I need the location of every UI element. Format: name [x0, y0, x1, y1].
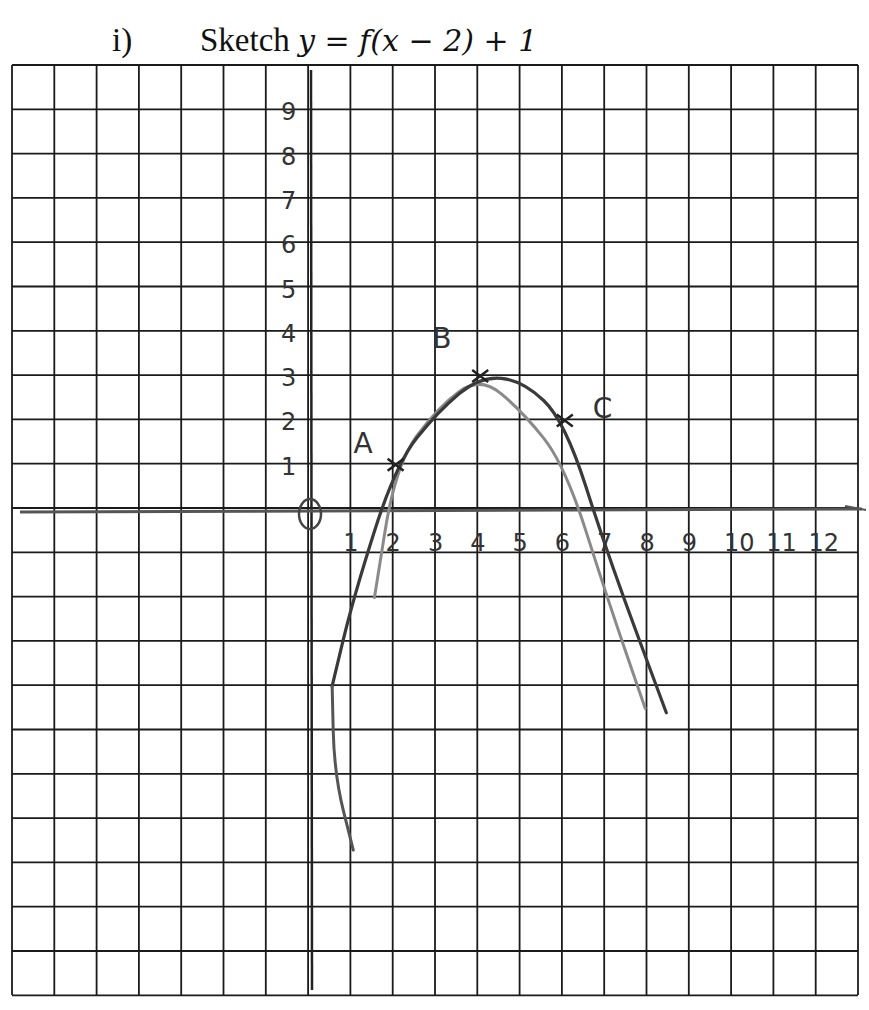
x-tick-label: 2: [386, 529, 401, 557]
y-tick-label: 7: [281, 187, 296, 215]
x-tick-label: 6: [555, 529, 570, 557]
y-tick-label: 4: [281, 320, 296, 348]
point-label-A: A: [354, 427, 373, 460]
x-tick-label: 1: [343, 529, 358, 557]
x-tick-label: 3: [428, 529, 443, 557]
graph-paper: ABC123456789101112123456789: [0, 0, 869, 1010]
y-tick-label: 6: [281, 231, 296, 259]
y-tick-label: 9: [281, 98, 296, 126]
x-tick-label: 10: [724, 529, 755, 557]
origin-label: [299, 499, 321, 529]
x-tick-label: 9: [682, 529, 697, 557]
y-tick-label: 8: [281, 143, 296, 171]
y-tick-label: 3: [281, 364, 296, 392]
point-label-C: C: [593, 392, 613, 425]
y-tick-label: 1: [281, 453, 296, 481]
x-tick-label: 8: [639, 529, 654, 557]
x-axis: [20, 509, 862, 512]
x-tick-label: 4: [470, 529, 485, 557]
x-tick-label: 5: [513, 529, 528, 557]
x-tick-label: 11: [766, 529, 797, 557]
x-tick-label: 7: [597, 529, 612, 557]
x-tick-label: 12: [809, 529, 840, 557]
y-tick-label: 2: [281, 408, 296, 436]
point-label-B: B: [432, 322, 451, 355]
y-tick-label: 5: [281, 276, 296, 304]
